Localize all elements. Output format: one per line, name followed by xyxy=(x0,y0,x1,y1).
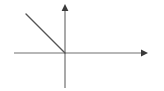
coordinate-axes-diagram xyxy=(0,0,164,91)
figure-canvas xyxy=(0,0,164,91)
background-rect xyxy=(0,0,164,91)
